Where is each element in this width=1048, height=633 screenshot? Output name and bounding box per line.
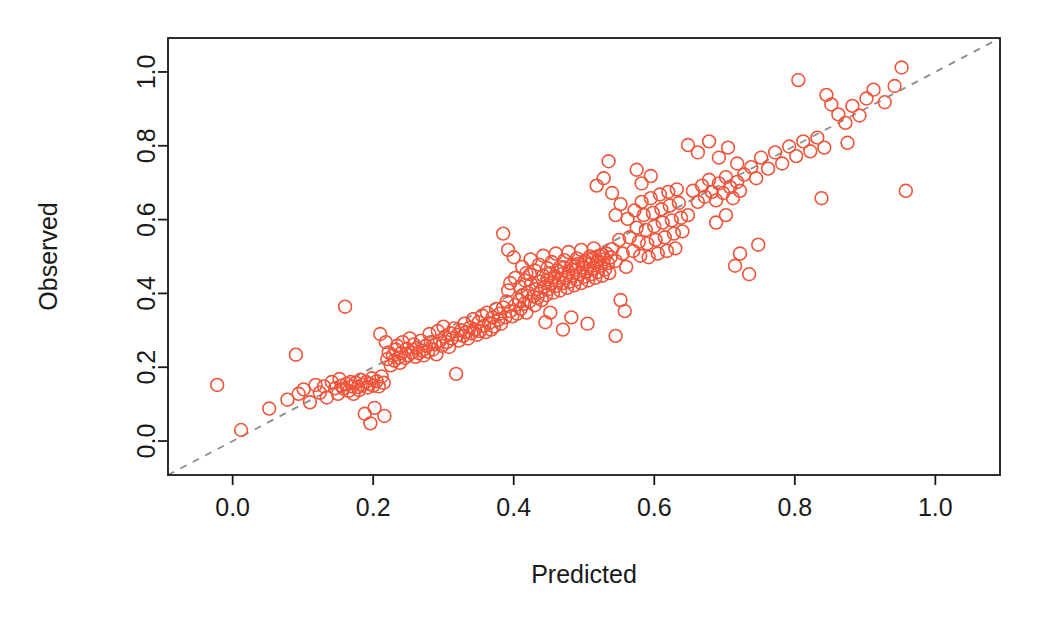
data-point [655, 203, 668, 216]
data-point [639, 224, 652, 237]
x-tick-label: 1.0 [918, 493, 953, 521]
data-point [378, 410, 391, 423]
data-point [839, 116, 852, 129]
x-axis-ticks-group: 0.00.20.40.60.81.0 [215, 475, 952, 521]
x-tick-label: 0.4 [496, 493, 531, 521]
data-point [792, 74, 805, 87]
y-tick-label: 0.2 [132, 350, 160, 385]
data-point [497, 227, 510, 240]
data-points-group [211, 61, 912, 436]
data-point [618, 305, 631, 318]
x-tick-label: 0.6 [637, 493, 672, 521]
data-point [815, 192, 828, 205]
data-point [676, 225, 689, 238]
data-point [752, 238, 765, 251]
data-point [878, 96, 891, 109]
y-tick-label: 0.4 [132, 276, 160, 311]
data-point [734, 247, 747, 260]
data-point [895, 61, 908, 74]
data-point [682, 209, 695, 222]
data-point [818, 141, 831, 154]
scatter-plot-figure: 0.00.20.40.60.81.0 0.00.20.40.60.81.0 Pr… [0, 0, 1048, 633]
data-point [364, 417, 377, 430]
data-point [691, 146, 704, 159]
x-tick-label: 0.2 [356, 493, 391, 521]
y-tick-label: 0.0 [132, 424, 160, 459]
data-point [235, 424, 248, 437]
data-point [899, 184, 912, 197]
data-point [661, 245, 674, 258]
data-point [263, 402, 276, 415]
data-point [656, 216, 669, 229]
data-point [762, 162, 775, 175]
data-point [597, 172, 610, 185]
data-point [832, 108, 845, 121]
data-point [649, 233, 662, 246]
data-point [641, 237, 654, 250]
data-point [590, 179, 603, 192]
data-point [562, 246, 575, 259]
y-tick-label: 0.8 [132, 128, 160, 163]
data-point [211, 379, 224, 392]
data-point [289, 348, 302, 361]
x-tick-label: 0.8 [777, 493, 812, 521]
data-point [722, 141, 735, 154]
data-point [888, 80, 901, 93]
data-point [630, 163, 643, 176]
data-point [841, 136, 854, 149]
data-point [646, 207, 659, 220]
data-point [635, 177, 648, 190]
data-point [620, 260, 633, 273]
data-point [648, 220, 661, 233]
data-point [743, 268, 756, 281]
y-tick-label: 0.6 [132, 202, 160, 237]
data-point [703, 135, 716, 148]
data-point [644, 170, 657, 183]
data-point [790, 150, 803, 163]
y-axis-ticks-group: 0.00.20.40.60.81.0 [132, 55, 168, 459]
y-axis-title: Observed [34, 202, 62, 310]
data-point [776, 157, 789, 170]
data-point [675, 211, 688, 224]
data-point [729, 259, 742, 272]
data-point [662, 186, 675, 199]
data-point [609, 329, 622, 342]
data-point [614, 198, 627, 211]
data-point [731, 157, 744, 170]
data-point [853, 109, 866, 122]
data-point [450, 367, 463, 380]
data-point [557, 323, 570, 336]
plot-canvas: 0.00.20.40.60.81.0 0.00.20.40.60.81.0 Pr… [0, 0, 1048, 633]
data-point [565, 311, 578, 324]
data-point [663, 199, 676, 212]
data-point [860, 92, 873, 105]
data-point [630, 221, 643, 234]
x-axis-title: Predicted [531, 560, 637, 588]
data-point [358, 407, 371, 420]
data-point [602, 155, 615, 168]
data-point [669, 242, 682, 255]
data-point [720, 209, 733, 222]
data-point [581, 317, 594, 330]
data-point [339, 300, 352, 313]
x-tick-label: 0.0 [215, 493, 250, 521]
data-point [804, 145, 817, 158]
data-point [750, 172, 763, 185]
data-point [665, 214, 678, 227]
data-point [867, 83, 880, 96]
y-tick-label: 1.0 [132, 55, 160, 90]
data-point [670, 183, 683, 196]
data-point [606, 187, 619, 200]
